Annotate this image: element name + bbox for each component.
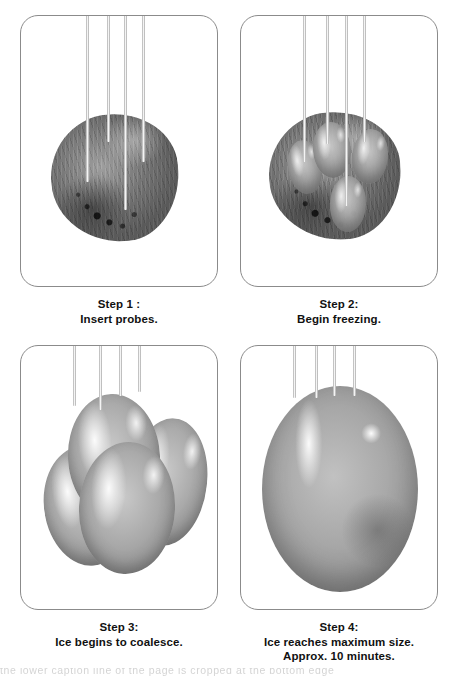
panel-step-2: Step 2: Begin freezing. <box>240 15 438 345</box>
probe-needle-3 <box>124 16 127 210</box>
caption-step-1: Step 1 : Insert probes. <box>20 297 218 326</box>
panel-step-1: Step 1 : Insert probes. <box>20 15 218 345</box>
probe-needle-2 <box>315 346 318 398</box>
cryoablation-figure: Step 1 : Insert probes. Step 2 <box>0 0 455 676</box>
probe-needle-1 <box>293 346 296 398</box>
probe-needle-3 <box>333 346 336 396</box>
caption-step-3: Step 3: Ice begins to coalesce. <box>20 620 218 649</box>
caption-step-4-line-1: Step 4: <box>240 620 438 635</box>
caption-step-1-line-2: Insert probes. <box>20 312 218 327</box>
probe-needle-2 <box>107 16 110 142</box>
probe-needle-1 <box>303 16 306 162</box>
probe-needle-1 <box>73 346 76 406</box>
caption-step-4-line-2: Ice reaches maximum size. <box>240 635 438 650</box>
caption-step-2-line-1: Step 2: <box>240 297 438 312</box>
probe-needle-3 <box>119 346 122 396</box>
panel-frame-step-2 <box>240 15 438 287</box>
tissue-mass <box>45 108 186 249</box>
illustration-step-2 <box>241 16 437 286</box>
probe-needle-4 <box>353 346 356 396</box>
caption-step-4-line-3: Approx. 10 minutes. <box>240 649 438 664</box>
caption-step-4: Step 4: Ice reaches maximum size. Approx… <box>240 620 438 664</box>
panel-frame-step-3 <box>20 345 218 610</box>
probe-needle-4 <box>138 346 141 392</box>
panel-step-3: Step 3: Ice begins to coalesce. <box>20 345 218 675</box>
iceball-maximum <box>262 386 418 592</box>
caption-step-3-line-2: Ice begins to coalesce. <box>20 635 218 650</box>
probe-needle-3 <box>345 16 348 206</box>
cropped-bottom-text-content: the lower caption line of the page is cr… <box>0 668 455 676</box>
probe-needle-1 <box>86 16 89 182</box>
panel-step-4: Step 4: Ice reaches maximum size. Approx… <box>240 345 438 675</box>
probe-needle-2 <box>99 346 102 410</box>
probe-needle-2 <box>326 16 329 144</box>
illustration-step-4 <box>241 346 437 609</box>
cropped-bottom-text: the lower caption line of the page is cr… <box>0 668 455 676</box>
panel-frame-step-1 <box>20 15 218 287</box>
illustration-step-1 <box>21 16 217 286</box>
probe-needle-4 <box>142 16 145 162</box>
caption-step-3-line-1: Step 3: <box>20 620 218 635</box>
probe-needle-4 <box>363 16 366 142</box>
caption-step-2: Step 2: Begin freezing. <box>240 297 438 326</box>
illustration-step-3 <box>21 346 217 609</box>
caption-step-2-line-2: Begin freezing. <box>240 312 438 327</box>
panel-frame-step-4 <box>240 345 438 610</box>
caption-step-1-line-1: Step 1 : <box>20 297 218 312</box>
